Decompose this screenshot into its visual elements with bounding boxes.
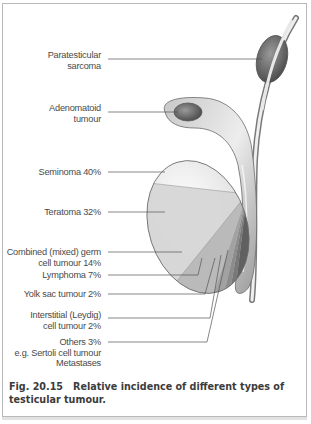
label-line: Metastases (14, 358, 101, 369)
label-paratesticular-sarcoma: Paratesticular sarcoma (48, 50, 101, 71)
label-line: Interstitial (Leydig) (30, 310, 101, 321)
label-line: Yolk sac tumour 2% (24, 289, 101, 300)
label-line: Seminoma 40% (39, 167, 101, 178)
label-seminoma: Seminoma 40% (39, 167, 101, 178)
label-line: sarcoma (48, 61, 101, 72)
figure-caption: Fig. 20.15Relative incidence of differen… (9, 380, 304, 406)
label-line: Adenomatoid (49, 103, 101, 114)
label-line: Teratoma 32% (44, 207, 101, 218)
label-teratoma: Teratoma 32% (44, 207, 101, 218)
label-lymphoma: Lymphoma 7% (42, 270, 101, 281)
label-line: cell tumour 2% (30, 321, 101, 332)
adenomatoid-mass (174, 103, 202, 121)
label-line: Lymphoma 7% (42, 270, 101, 281)
label-interstitial-leydig: Interstitial (Leydig) cell tumour 2% (30, 310, 101, 331)
label-line: e.g. Sertoli cell tumour (14, 348, 101, 359)
label-adenomatoid-tumour: Adenomatoid tumour (49, 103, 101, 124)
label-combined-germ-cell: Combined (mixed) germ cell tumour 14% (7, 247, 101, 268)
label-others: Others 3% e.g. Sertoli cell tumour Metas… (14, 337, 101, 369)
label-line: Others 3% (14, 337, 101, 348)
label-line: Paratesticular (48, 50, 101, 61)
label-yolk-sac: Yolk sac tumour 2% (24, 289, 101, 300)
label-line: cell tumour 14% (7, 258, 101, 269)
label-line: tumour (49, 114, 101, 125)
label-line: Combined (mixed) germ (7, 247, 101, 258)
figure-number: Fig. 20.15 (9, 381, 63, 392)
